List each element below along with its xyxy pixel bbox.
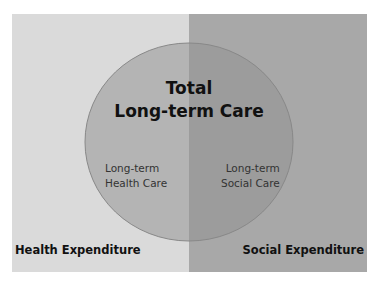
long-term-social-care-label: Long-term Social Care (221, 161, 280, 191)
long-term-health-care-label: Long-term Health Care (105, 161, 167, 191)
health-care-line1: Long-term (105, 161, 167, 176)
social-care-line1: Long-term (221, 161, 280, 176)
diagram-title-line1: Total (0, 77, 378, 99)
social-care-line2: Social Care (221, 176, 280, 191)
health-care-line2: Health Care (105, 176, 167, 191)
social-expenditure-label: Social Expenditure (243, 243, 364, 257)
health-expenditure-label: Health Expenditure (15, 243, 141, 257)
diagram-title-line2: Long-term Care (0, 100, 378, 122)
